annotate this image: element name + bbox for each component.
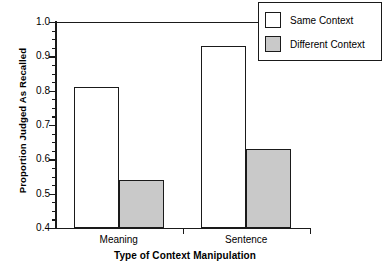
y-axis-minor-tick bbox=[52, 151, 56, 152]
y-axis-minor-tick bbox=[52, 48, 56, 49]
y-axis-major-tick bbox=[49, 228, 55, 229]
x-axis-group-label-sentence: Sentence bbox=[196, 234, 296, 245]
y-axis-tick-label: 1.0 bbox=[24, 17, 50, 27]
y-axis-major-tick bbox=[49, 194, 55, 195]
y-axis-tick-label: 0.7 bbox=[24, 120, 50, 130]
y-axis-major-tick bbox=[49, 159, 55, 160]
x-axis-title: Type of Context Manipulation bbox=[0, 250, 370, 261]
y-axis-minor-tick bbox=[52, 74, 56, 75]
legend-label-same-context: Same Context bbox=[290, 15, 353, 26]
y-axis-major-tick bbox=[49, 125, 55, 126]
y-axis-minor-tick bbox=[52, 168, 56, 169]
y-axis-minor-tick bbox=[52, 202, 56, 203]
x-axis-tick bbox=[183, 228, 184, 234]
y-axis-tick-label: 0.8 bbox=[24, 86, 50, 96]
x-axis-group-label-meaning: Meaning bbox=[69, 234, 169, 245]
bar-sentence-different-context bbox=[246, 149, 291, 228]
bar-meaning-different-context bbox=[119, 180, 164, 228]
legend-item-same-context[interactable]: Same Context bbox=[265, 8, 375, 32]
y-axis-major-tick bbox=[49, 91, 55, 92]
y-axis-minor-tick bbox=[52, 39, 56, 40]
y-axis-minor-tick bbox=[52, 185, 56, 186]
y-axis-minor-tick bbox=[52, 82, 56, 83]
y-axis-tick-label: 0.4 bbox=[24, 223, 50, 233]
gray-square-swatch-icon bbox=[265, 36, 281, 52]
y-axis-minor-tick bbox=[52, 31, 56, 32]
y-axis-tick-label: 0.5 bbox=[24, 189, 50, 199]
y-axis-major-tick bbox=[49, 56, 55, 57]
x-axis-tick bbox=[310, 228, 311, 234]
y-axis-minor-tick bbox=[52, 211, 56, 212]
bar-sentence-same-context bbox=[201, 46, 246, 228]
y-axis-minor-tick bbox=[52, 65, 56, 66]
y-axis-tick-labels: 0.40.50.60.70.80.91.0 bbox=[20, 0, 50, 273]
y-axis-minor-tick bbox=[52, 134, 56, 135]
y-axis-minor-tick bbox=[52, 116, 56, 117]
y-axis-minor-tick bbox=[52, 219, 56, 220]
y-axis-tick-label: 0.6 bbox=[24, 154, 50, 164]
legend-item-different-context[interactable]: Different Context bbox=[265, 32, 375, 56]
bar-meaning-same-context bbox=[74, 87, 119, 228]
y-axis-tick-label: 0.9 bbox=[24, 51, 50, 61]
white-square-swatch-icon bbox=[265, 12, 281, 28]
y-axis-minor-tick bbox=[52, 99, 56, 100]
y-axis-minor-tick bbox=[52, 108, 56, 109]
y-axis-major-tick bbox=[49, 22, 55, 23]
y-axis-minor-tick bbox=[52, 177, 56, 178]
y-axis-minor-tick bbox=[52, 142, 56, 143]
chart-legend: Same Context Different Context bbox=[258, 2, 382, 61]
bar-chart-figure: Proportion Judged As Recalled 0.40.50.60… bbox=[0, 0, 391, 273]
legend-label-different-context: Different Context bbox=[290, 39, 365, 50]
